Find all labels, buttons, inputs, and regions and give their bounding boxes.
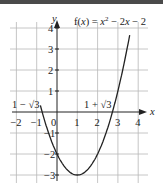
x-axis-label: x	[149, 106, 155, 117]
x-tick-labels: −2−11234	[10, 117, 141, 128]
x-tick-label: 1	[74, 117, 79, 128]
y-tick-label: 3	[48, 44, 53, 55]
origin-label: 0	[51, 117, 56, 128]
x-axis-arrow-icon	[139, 109, 147, 115]
x-tick-label: 3	[115, 117, 120, 128]
y-tick-label: 4	[48, 23, 54, 34]
x-tick-label: 4	[135, 117, 141, 128]
y-tick-label: −1	[44, 128, 55, 139]
function-graph: −2−11234 −3−2−11234 x y f(x) = x2 − 2x −…	[0, 0, 163, 189]
y-tick-label: 2	[48, 65, 53, 76]
x-tick-label: −1	[31, 117, 42, 128]
function-title: f(x) = x2 − 2x − 2	[74, 15, 146, 28]
y-tick-label: −2	[44, 149, 55, 160]
root-label-left: 1 − √3	[12, 99, 39, 110]
y-axis-label: y	[51, 13, 57, 24]
y-tick-label: −3	[44, 170, 55, 181]
x-tick-label: 2	[95, 117, 100, 128]
x-tick-label: −2	[10, 117, 21, 128]
root-label-right: 1 + √3	[84, 99, 111, 110]
y-tick-label: 1	[48, 86, 53, 97]
